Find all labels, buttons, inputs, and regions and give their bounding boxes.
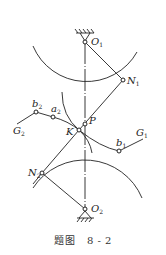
label-n1: N1: [127, 76, 140, 87]
point-b1: [117, 149, 121, 153]
point-a2: [51, 115, 55, 119]
label-g2: G2: [13, 126, 25, 137]
caption-prefix: 题图: [54, 235, 75, 246]
label-o2: O2: [91, 204, 103, 215]
point-p: [83, 122, 87, 126]
label-b1: b1: [116, 138, 126, 149]
label-b2: b2: [32, 99, 42, 110]
radius-o2-n2: [42, 173, 85, 209]
label-k: K: [66, 127, 73, 137]
point-b2: [34, 110, 38, 114]
lower-involute-curve: [79, 130, 92, 153]
point-k: [77, 128, 81, 132]
point-n1: [121, 78, 125, 82]
point-o1: [83, 40, 87, 44]
label-g1: G1: [136, 128, 148, 139]
label-p: P: [89, 116, 96, 126]
g1-curve: [79, 130, 143, 151]
figure-caption: 题图8 - 2: [0, 232, 166, 247]
caption-number: 8 - 2: [87, 235, 112, 246]
label-n2: N2: [28, 168, 41, 179]
point-o2: [83, 207, 87, 211]
label-o1: O1: [91, 37, 103, 48]
label-a2: a2: [51, 104, 61, 115]
